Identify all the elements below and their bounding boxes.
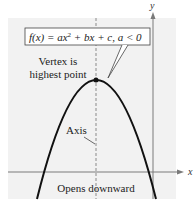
axis-annotation: Axis xyxy=(66,124,87,136)
function-label-suffix: + bx + c, a < 0 xyxy=(71,31,142,43)
y-axis-arrow-icon xyxy=(151,12,156,19)
vertex-point xyxy=(94,78,99,83)
y-axis-label: y xyxy=(149,0,155,11)
x-axis-label: x xyxy=(187,166,193,177)
function-label-prefix: f(x) = ax xyxy=(29,31,68,44)
function-label: f(x) = ax2 + bx + c, a < 0 xyxy=(29,31,142,44)
vertex-annotation-line1: Vertex is xyxy=(39,55,78,67)
x-axis-arrow-icon xyxy=(177,170,184,175)
opens-annotation: Opens downward xyxy=(57,182,135,194)
parabola-diagram: x y f(x) = ax2 + bx + c, a < 0 Vertex is… xyxy=(0,0,194,208)
vertex-annotation-line2: highest point xyxy=(29,68,86,80)
